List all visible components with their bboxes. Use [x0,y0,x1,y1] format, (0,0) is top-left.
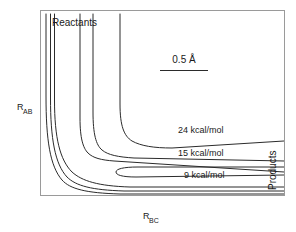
y-axis-label-sub: AB [23,108,33,115]
reactants-label: Reactants [52,17,97,28]
x-axis-label-sub: BC [149,217,159,224]
plot-frame [41,11,285,196]
potential-energy-surface-chart: Reactants Products 0.5 Å 24 kcal/mol 15 … [0,0,296,232]
scale-bar-label: 0.5 Å [172,53,196,65]
contour-15-kcal [93,14,284,161]
products-label: Products [267,151,278,190]
y-axis-label: R AB [17,102,33,115]
contour-label-24: 24 kcal/mol [178,125,224,135]
contour-label-15: 15 kcal/mol [178,148,224,158]
figure-container: Reactants Products 0.5 Å 24 kcal/mol 15 … [0,0,296,232]
contour-group [46,14,284,194]
x-axis-label: R BC [143,211,159,224]
contour-outermost-left-c [55,14,285,187]
contour-label-9: 9 kcal/mol [184,170,225,180]
